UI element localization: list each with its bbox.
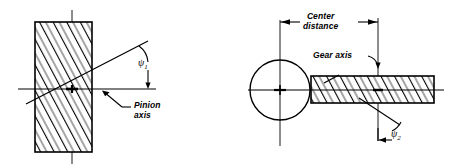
psi2-subscript: 2 <box>397 134 401 142</box>
pinion-axis-label: Pinion axis <box>134 100 161 120</box>
center-distance-label-line1: Center <box>303 11 338 21</box>
right-view-group <box>248 18 444 146</box>
psi1-label: ψ1 <box>138 57 148 71</box>
gear-axis-leader <box>368 56 381 69</box>
gear-center-mark <box>274 85 286 95</box>
psi1-subscript: 1 <box>144 63 148 71</box>
pinion-axis-label-line2: axis <box>134 110 161 120</box>
psi1-leader-arrow <box>145 70 150 89</box>
gear-axis-label: Gear axis <box>313 50 352 60</box>
left-view-group <box>18 10 156 164</box>
psi2-label: ψ2 <box>391 128 401 142</box>
figure-canvas: ψ1 Pinion axis Center distance Gear axis… <box>0 0 451 165</box>
pinion-body-hatch <box>35 22 92 152</box>
diagram-svg <box>0 0 451 165</box>
pinion-axis-label-line1: Pinion <box>134 100 161 110</box>
pinion-axis-leader <box>102 91 131 108</box>
center-distance-label: Center distance <box>303 11 338 31</box>
center-distance-label-line2: distance <box>303 21 338 31</box>
